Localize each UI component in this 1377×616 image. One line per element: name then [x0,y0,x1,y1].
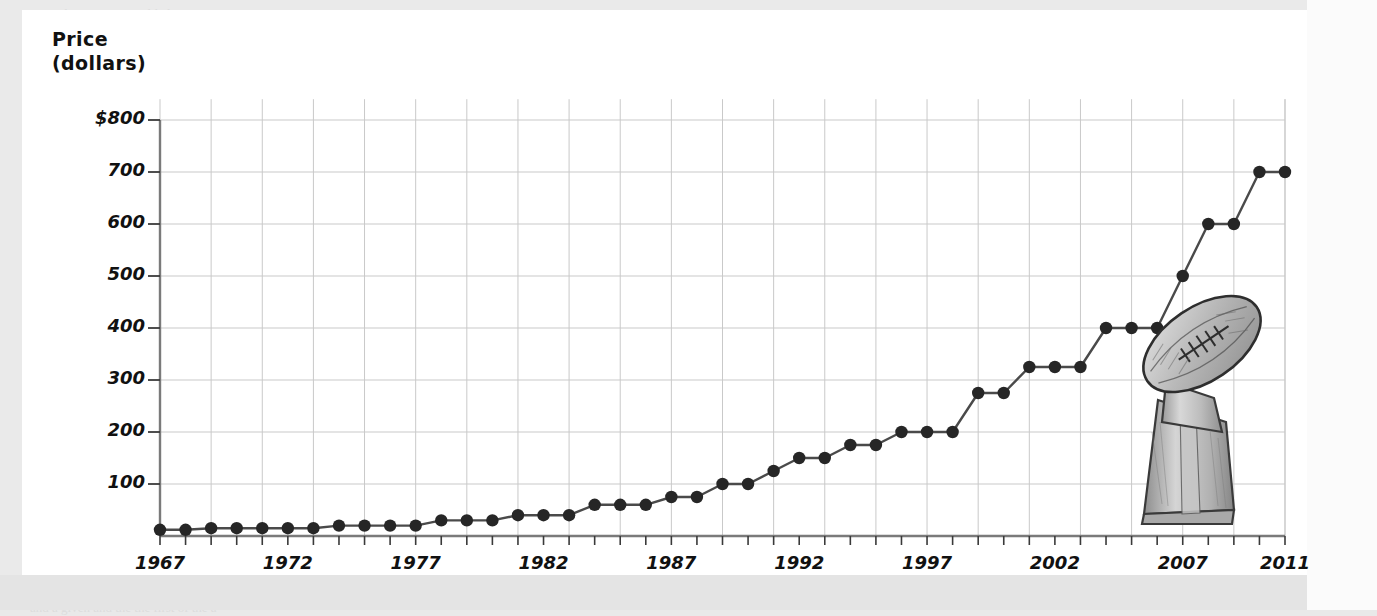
x-axis-tick-label: 2002 [1000,552,1110,573]
data-point [512,509,524,521]
data-point [972,387,984,399]
data-point [998,387,1010,399]
data-point [793,452,805,464]
x-axis-tick-label: 1997 [872,552,982,573]
data-point [307,522,319,534]
data-point [358,519,370,531]
data-point [409,519,421,531]
data-point [895,426,907,438]
x-axis-tick-label: 1967 [105,552,215,573]
vertical-gridlines [160,99,1285,536]
data-point [205,522,217,534]
data-point [1202,218,1214,230]
x-axis-tick-label: 2007 [1128,552,1238,573]
x-axis-tick-label: 1972 [233,552,343,573]
data-point [716,478,728,490]
data-point [946,426,958,438]
data-point [486,514,498,526]
x-axis-tick-label: 1977 [361,552,471,573]
x-axis-ticks [160,536,1285,545]
data-point [1100,322,1112,334]
data-point [1049,361,1061,373]
y-axis-tick-label: 700 [40,159,145,180]
data-point [282,522,294,534]
y-axis-tick-label: 300 [40,367,145,388]
y-axis-tick-label: 400 [40,315,145,336]
data-point [691,491,703,503]
data-point [870,439,882,451]
y-axis-tick-label: 100 [40,471,145,492]
data-point [179,524,191,536]
x-axis-tick-label: 1987 [616,552,726,573]
data-point [819,452,831,464]
data-point [1228,218,1240,230]
data-point [665,491,677,503]
data-point [537,509,549,521]
data-point [435,514,447,526]
data-point [1279,166,1291,178]
x-axis-tick-label: 1992 [744,552,854,573]
data-point [1253,166,1265,178]
data-point [588,499,600,511]
y-axis-tick-label: 500 [40,263,145,284]
data-point [742,478,754,490]
y-axis-ticks [148,120,160,484]
data-point [844,439,856,451]
data-point [256,522,268,534]
y-axis-tick-label: $800 [40,107,145,128]
data-point [614,499,626,511]
data-point [563,509,575,521]
x-axis-tick-label: 2011 [1230,552,1340,573]
data-point [384,519,396,531]
data-point [767,465,779,477]
x-axis-tick-label: 1982 [489,552,599,573]
data-point [333,519,345,531]
data-point [1023,361,1035,373]
lombardi-trophy-illustration [1122,272,1282,530]
data-point [921,426,933,438]
y-axis-tick-label: 200 [40,419,145,440]
data-point [1074,361,1086,373]
data-point [461,514,473,526]
data-point [640,499,652,511]
data-point [154,524,166,536]
data-point [231,522,243,534]
y-axis-tick-label: 600 [40,211,145,232]
